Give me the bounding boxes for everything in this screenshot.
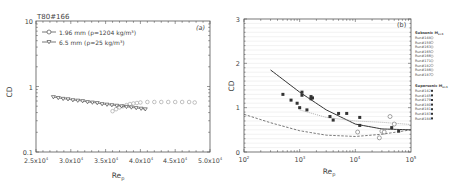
x-tick-label: 3.5x104: [94, 156, 119, 164]
data-point: [166, 100, 170, 104]
data-point: [328, 115, 331, 118]
data-point: [298, 106, 301, 109]
data-point: [135, 101, 139, 105]
legend-entry: Run#183: [415, 112, 431, 116]
data-point: [139, 101, 143, 105]
data-point: [300, 94, 303, 97]
panel-title: T80#166: [36, 13, 70, 21]
legend-entry: Run#166: [415, 54, 431, 58]
data-point: [356, 130, 360, 134]
data-point: [187, 100, 191, 104]
y-axis-label: CD: [227, 80, 236, 91]
data-point: [345, 112, 348, 115]
legend: 1.96 mm (ρ=1204 kg/m³) 6.5 mm (ρ=25 kg/m…: [42, 29, 136, 47]
legend-entry: Run#187: [415, 73, 431, 77]
y-tick-label: 3: [236, 16, 240, 24]
data-point: [193, 101, 197, 105]
data-point: [146, 100, 150, 104]
legend-entry: Run#159: [415, 41, 431, 45]
y-tick-label: 0.1: [23, 149, 33, 157]
x-tick-label: 105: [406, 155, 417, 164]
data-point: [132, 102, 136, 106]
triangle-marker-icon: [47, 41, 51, 44]
x-tick-label: 102: [239, 155, 250, 164]
x-tick-label: 4.5x104: [163, 156, 188, 164]
y-tick-label: 1: [236, 104, 240, 112]
data-point: [143, 108, 147, 111]
panel-a: T80#166 (a) 1.96 mm (ρ=1204 kg/m³) 6.5 m…: [5, 13, 223, 182]
x-tick-label: 5.0x104: [198, 156, 223, 164]
x-axis-label: Rep: [323, 167, 336, 178]
y-tick-label: 1: [29, 84, 33, 92]
legend-label-1: 1.96 mm (ρ=1204 kg/m³): [59, 29, 136, 37]
data-point: [358, 116, 361, 119]
data-point: [397, 130, 400, 133]
figure: T80#166 (a) 1.96 mm (ρ=1204 kg/m³) 6.5 m…: [0, 0, 470, 190]
panel-label: (a): [196, 24, 205, 32]
y-axis-label: CD: [5, 86, 14, 97]
data-point: [114, 107, 118, 111]
y-tick-label: 10: [25, 18, 33, 26]
data-point: [310, 97, 313, 100]
data-point: [153, 100, 157, 104]
data-point: [180, 100, 184, 104]
legend-entry: Run#186: [415, 68, 431, 72]
data-point: [281, 93, 284, 96]
data-point: [358, 124, 361, 127]
data-point: [382, 130, 386, 134]
legend-label-2: 6.5 mm (ρ=25 kg/m³): [59, 39, 125, 47]
x-tick-label: 2.5x104: [24, 156, 49, 164]
panel-label: (b): [397, 21, 406, 29]
legend-entry: Run#181: [415, 107, 431, 111]
legend-entry: Run#184: [415, 117, 431, 121]
data-point: [390, 126, 393, 129]
x-tick-label: 4.0x104: [129, 156, 154, 164]
x-tick-label: 103: [295, 155, 306, 164]
data-point: [305, 108, 308, 111]
legend-entry: Run#171: [415, 59, 431, 63]
x-tick-label: 104: [350, 155, 361, 164]
x-tick-label: 3.0x104: [59, 156, 84, 164]
data-point: [337, 112, 340, 115]
data-point: [377, 136, 381, 140]
data-point: [332, 119, 335, 122]
legend-entry: Run#165: [415, 50, 431, 54]
legend: Subsonic Ms<1 Run#148Run#159Run#163Run#1…: [415, 31, 448, 121]
data-point: [388, 115, 392, 119]
legend-entry: Run#180: [415, 103, 431, 107]
legend-entry: Run#163: [415, 45, 431, 49]
data-point: [159, 100, 163, 104]
legend-entry: Run#148: [415, 36, 431, 40]
x-axis-label: Rep: [112, 171, 125, 182]
data-point: [296, 102, 299, 105]
data-point: [392, 122, 396, 126]
y-tick-label: 2: [236, 60, 240, 68]
data-point: [173, 100, 177, 104]
panel-b: (b) 3210 102103104105 CD Rep Subsonic Ms…: [227, 16, 448, 179]
data-point: [290, 99, 293, 102]
legend-entry: Run#142: [415, 89, 431, 93]
legend-entry: Run#145: [415, 94, 431, 98]
data-point: [111, 109, 115, 113]
circle-marker-icon: [47, 30, 51, 34]
data-point: [300, 91, 303, 94]
legend-entry: Run#182: [415, 64, 431, 68]
legend-entry: Run#179: [415, 98, 431, 102]
